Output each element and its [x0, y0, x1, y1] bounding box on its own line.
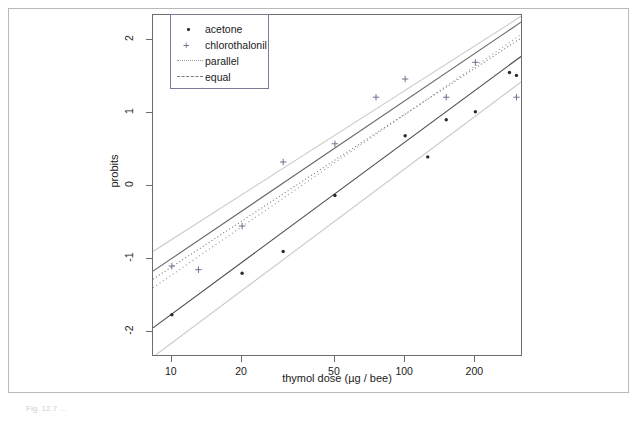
data-point-acetone: [170, 313, 173, 316]
y-tick-mark: [146, 185, 152, 186]
x-tick-mark: [404, 356, 405, 362]
legend-label-chlorothalonil: chlorothalonil: [205, 39, 267, 51]
dashdot-line-icon: [175, 70, 205, 84]
legend-item-acetone: acetone: [171, 21, 268, 37]
y-tick-mark: [146, 112, 152, 113]
legend-item-equal: equal: [171, 69, 268, 85]
chart-legend: acetone + chlorothalonil parallel equal: [170, 14, 269, 89]
data-point-acetone: [515, 74, 518, 77]
x-tick-mark: [241, 356, 242, 362]
x-axis-title: thymol dose (µg / bee): [152, 372, 522, 384]
y-tick-label: 2: [123, 23, 135, 53]
legend-label-acetone: acetone: [205, 23, 242, 35]
y-tick-mark: [146, 331, 152, 332]
data-point-acetone: [426, 155, 429, 158]
x-tick-mark: [171, 356, 172, 362]
y-tick-mark: [146, 258, 152, 259]
data-point-chlorothalonil: [513, 94, 519, 100]
data-point-acetone: [445, 118, 448, 121]
data-point-acetone: [403, 134, 406, 137]
y-tick-mark: [146, 39, 152, 40]
figure-caption: Fig. 12.7 …: [26, 404, 626, 413]
data-point-chlorothalonil: [169, 263, 175, 269]
data-point-chlorothalonil: [195, 266, 201, 272]
fit-line-confidence-lower-outer: [153, 80, 522, 356]
data-point-acetone: [508, 71, 511, 74]
plus-marker-icon: +: [175, 38, 205, 52]
data-point-chlorothalonil: [373, 94, 379, 100]
y-axis-title: probits: [108, 131, 120, 211]
data-point-chlorothalonil: [239, 223, 245, 229]
x-tick-mark: [474, 356, 475, 362]
legend-item-chlorothalonil: + chlorothalonil: [171, 37, 268, 53]
dotted-line-icon: [175, 54, 205, 68]
legend-label-parallel: parallel: [205, 55, 239, 67]
fit-line-acetone-fit: [153, 55, 522, 328]
data-point-chlorothalonil: [402, 76, 408, 82]
x-tick-mark: [334, 356, 335, 362]
y-tick-label: 0: [123, 169, 135, 199]
legend-label-equal: equal: [205, 71, 231, 83]
legend-item-parallel: parallel: [171, 53, 268, 69]
data-point-acetone: [240, 272, 243, 275]
y-tick-label: 1: [123, 96, 135, 126]
data-point-chlorothalonil: [443, 94, 449, 100]
figure-page: 102050100200210-1-2 thymol dose (µg / be…: [0, 0, 639, 421]
data-point-chlorothalonil: [280, 159, 286, 165]
data-point-acetone: [333, 194, 336, 197]
data-point-acetone: [281, 250, 284, 253]
y-tick-label: -1: [123, 242, 135, 272]
dot-marker-icon: [175, 22, 205, 36]
data-point-chlorothalonil: [472, 59, 478, 65]
data-point-acetone: [474, 110, 477, 113]
y-tick-label: -2: [123, 315, 135, 345]
